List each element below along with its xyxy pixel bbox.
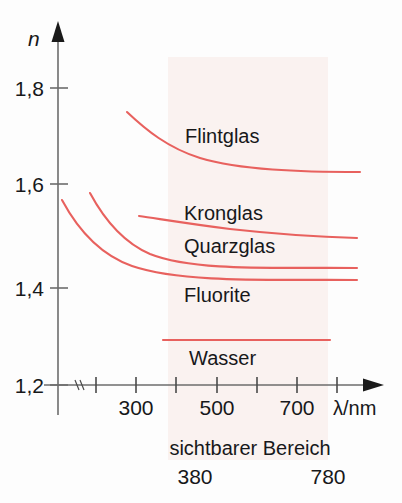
- x-tick-label-300: 300: [118, 397, 153, 418]
- x-axis-arrow: [363, 379, 384, 392]
- y-axis-label: n: [28, 28, 40, 49]
- x-tick-label-500: 500: [199, 397, 234, 418]
- series-label-quarzglas: Quarzglas: [184, 236, 275, 256]
- y-tick-label-1-6: 1,6: [4, 174, 44, 195]
- series-label-fluorite: Fluorite: [184, 285, 251, 305]
- y-tick-label-1-2: 1,2: [4, 375, 44, 396]
- visible-range-caption: sichtbarer Bereich: [169, 438, 330, 458]
- refractive-index-chart: n 1,8 1,6 1,4 1,2 300 500 700 λ/nm Flint…: [0, 0, 402, 503]
- series-label-flintglas: Flintglas: [185, 126, 259, 146]
- x-tick-label-700: 700: [279, 397, 314, 418]
- y-tick-label-1-8: 1,8: [4, 78, 44, 99]
- series-label-kronglas: Kronglas: [184, 203, 263, 223]
- y-axis-arrow: [52, 21, 65, 42]
- visible-range-end: 780: [310, 466, 345, 487]
- series-label-wasser: Wasser: [189, 348, 256, 368]
- y-tick-marks: [50, 88, 68, 385]
- x-axis-unit-label: λ/nm: [333, 398, 376, 418]
- visible-range-start: 380: [177, 466, 212, 487]
- y-tick-label-1-4: 1,4: [4, 278, 44, 299]
